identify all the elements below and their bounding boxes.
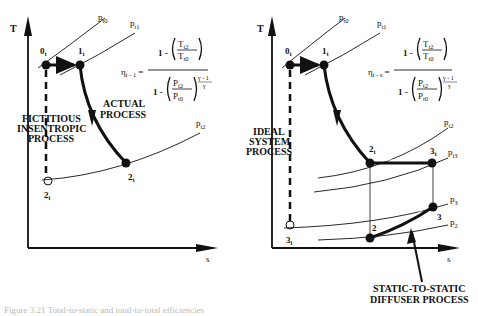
svg-text:Tt2: Tt2 [423, 39, 434, 50]
svg-text:γ: γ [447, 83, 451, 89]
label-3t: 3t [430, 146, 438, 157]
efficiency-formula-right: ηt - s= 1 - Tt2 Tt0 1 - Pt2 Pt0 γ - 1 γ [368, 38, 457, 102]
state-2t [366, 159, 375, 168]
svg-text:γ - 1: γ - 1 [197, 75, 209, 81]
actual-process-curve [324, 65, 370, 163]
s-axis-arrow-icon [438, 244, 460, 252]
label-3i: 3i [286, 235, 293, 246]
label-1t: 1t [78, 46, 86, 57]
fictitious-label-3: PROCESS [28, 133, 75, 144]
label-p2: p2 [450, 217, 458, 229]
state-2i [44, 177, 52, 185]
label-p3: p3 [450, 194, 458, 206]
svg-text:γ: γ [202, 83, 206, 89]
t-axis-label: T [257, 23, 264, 34]
isobar-pt0 [38, 18, 105, 68]
s-axis-arrow-icon [196, 244, 218, 252]
label-0t: 0t [285, 46, 293, 57]
label-pt0: pt0 [339, 12, 349, 24]
state-2t [122, 159, 131, 168]
svg-text:ηt - 1=: ηt - 1= [121, 67, 143, 78]
diffuser-pointer-arrow-icon [407, 228, 416, 244]
isobar-p3 [284, 204, 448, 228]
s-axis-label: s [206, 254, 210, 264]
label-3: 3 [437, 212, 442, 222]
label-pt2: pt2 [444, 117, 454, 129]
svg-text:Pt2: Pt2 [173, 78, 183, 89]
svg-text:1 -: 1 - [403, 48, 413, 58]
svg-text:Tt2: Tt2 [178, 39, 189, 50]
ideal-label-3: PROCESS [246, 146, 293, 157]
svg-text:ηt - s=: ηt - s= [368, 67, 390, 78]
label-2i: 2i [44, 190, 51, 201]
label-1t: 1t [322, 46, 330, 57]
svg-text:γ - 1: γ - 1 [442, 75, 454, 81]
state-2 [366, 234, 375, 243]
svg-text:1 -: 1 - [398, 87, 408, 97]
diffuser-label-1: STATIC-TO-STATIC [373, 283, 465, 294]
diffuser-label-2: DIFFUSER PROCESS [370, 294, 469, 305]
svg-text:Tt0: Tt0 [423, 51, 434, 62]
state-3 [429, 203, 438, 212]
right-diagram: T s pt0 pt1 pt2 pt3 p3 p2 [246, 12, 469, 305]
state-1t [76, 61, 85, 70]
svg-text:Pt0: Pt0 [173, 91, 183, 102]
label-2t: 2t [369, 144, 377, 155]
figure-caption: Figure 3.21 Total-to-static and total-to… [4, 305, 204, 315]
label-pt1: pt1 [377, 18, 387, 30]
svg-text:1 -: 1 - [158, 48, 168, 58]
state-1t [320, 61, 329, 70]
isobar-pt0 [282, 18, 345, 68]
label-2t: 2t [128, 172, 136, 183]
label-pt2: pt2 [196, 118, 206, 130]
actual-label-1: ACTUAL [103, 98, 146, 109]
t-axis-arrow-icon [268, 16, 276, 36]
label-pt3: pt3 [448, 147, 458, 159]
left-diagram: T s pt0 pt1 pt2 0t 1t 2t 2i ACTUAL PROCE… [10, 12, 218, 264]
s-axis-label: s [447, 254, 451, 264]
actual-label-2: PROCESS [100, 109, 147, 120]
label-2: 2 [372, 223, 377, 233]
t-axis-arrow-icon [24, 16, 32, 36]
svg-text:Tt0: Tt0 [178, 51, 189, 62]
svg-text:Pt0: Pt0 [418, 91, 428, 102]
state-0t [42, 61, 51, 70]
svg-text:1 -: 1 - [153, 87, 163, 97]
label-0t: 0t [40, 46, 48, 57]
ts-diagrams: T s pt0 pt1 pt2 0t 1t 2t 2i ACTUAL PROCE… [0, 0, 478, 316]
isobar-pt2 [318, 128, 448, 178]
state-0t [286, 61, 295, 70]
state-3t [428, 159, 437, 168]
t-axis-label: T [10, 23, 17, 34]
efficiency-formula-left: ηt - 1= 1 - Tt2 Tt0 1 - Pt2 Pt0 γ - 1 γ [121, 38, 212, 102]
label-pt1: pt1 [130, 18, 140, 30]
svg-text:Pt2: Pt2 [418, 78, 428, 89]
